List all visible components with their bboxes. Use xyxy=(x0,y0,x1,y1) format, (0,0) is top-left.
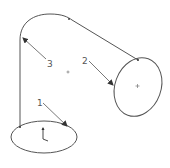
path-point-end xyxy=(137,59,139,61)
callout-3-leader xyxy=(23,38,46,59)
coordinate-triad-icon xyxy=(42,127,49,141)
end-profile-ellipse xyxy=(106,51,170,123)
callout-3-label: 3 xyxy=(47,59,53,69)
diagram-canvas: 1 2 3 xyxy=(0,0,170,168)
path-point-start xyxy=(19,126,21,128)
center-point-icon xyxy=(67,71,70,74)
callout-2-leader xyxy=(89,61,113,85)
end-ellipse-center-icon xyxy=(136,84,140,88)
callout-2-label: 2 xyxy=(82,56,88,66)
callout-1-label: 1 xyxy=(37,98,43,108)
callout-1-leader xyxy=(43,103,67,126)
path-point-top xyxy=(68,18,70,20)
